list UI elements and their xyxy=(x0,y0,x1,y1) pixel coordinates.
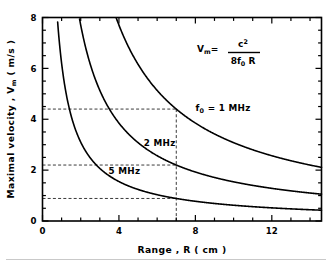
x-tick-label: 12 xyxy=(266,226,278,236)
y-tick-label: 6 xyxy=(31,64,37,74)
y-tick-label: 8 xyxy=(31,13,37,23)
velocity-vs-range-chart: 04812 02468 f0 = 1 MHz2 MHz5 MHz Range ,… xyxy=(0,0,332,264)
x-tick-label: 8 xyxy=(192,226,198,236)
x-tick-label: 0 xyxy=(40,226,46,236)
curve-label-5-mhz: 5 MHz xyxy=(108,166,140,176)
y-tick-label: 4 xyxy=(31,114,37,124)
y-tick-label: 0 xyxy=(31,216,37,226)
canvas-background xyxy=(0,0,332,264)
figure-container: 04812 02468 f0 = 1 MHz2 MHz5 MHz Range ,… xyxy=(0,0,332,264)
x-axis-title: Range , R ( cm ) xyxy=(138,244,227,255)
x-tick-label: 4 xyxy=(116,226,122,236)
curve-label-2-mhz: 2 MHz xyxy=(144,138,176,148)
y-tick-label: 2 xyxy=(31,165,37,175)
